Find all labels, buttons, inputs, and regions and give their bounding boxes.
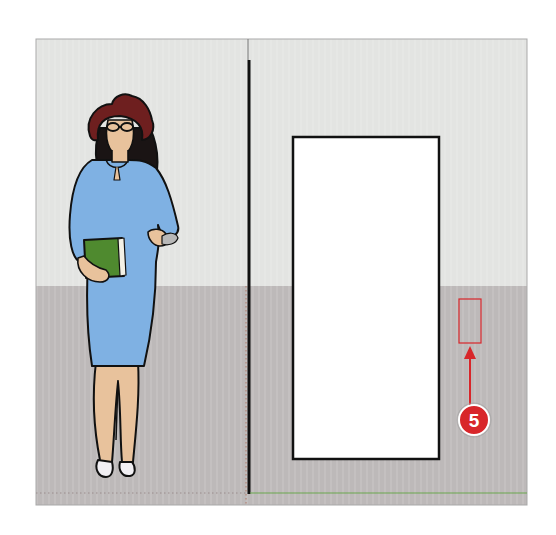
shoe-right (119, 462, 134, 476)
step-badge: 5 (457, 403, 491, 437)
door-opening[interactable] (293, 137, 439, 459)
elevation-scene: 5 (0, 0, 556, 535)
step-number: 5 (469, 410, 480, 431)
shoe-left (96, 460, 112, 477)
